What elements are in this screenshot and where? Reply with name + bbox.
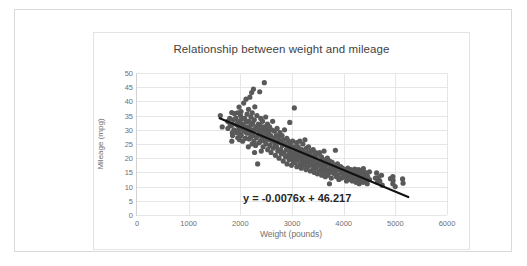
x-axis-title: Weight (pounds) <box>136 229 446 239</box>
y-tick-label: 20 <box>125 154 133 163</box>
gridline-horizontal <box>137 215 447 216</box>
y-tick-label: 40 <box>125 97 133 106</box>
x-tick-label: 3000 <box>284 219 301 228</box>
x-tick-label: 1000 <box>180 219 197 228</box>
x-tick-label: 6000 <box>439 219 456 228</box>
y-tick-label: 15 <box>125 168 133 177</box>
trendline-equation-annotation: y = -0.0076x + 46.217 <box>243 192 351 204</box>
chart-container: Relationship between weight and mileage … <box>93 32 470 250</box>
y-tick-label: 45 <box>125 83 133 92</box>
y-tick-label: 25 <box>125 140 133 149</box>
x-tick-label: 0 <box>135 219 139 228</box>
y-tick-label: 50 <box>125 69 133 78</box>
y-tick-label: 10 <box>125 182 133 191</box>
y-tick-label: 35 <box>125 111 133 120</box>
y-tick-label: 30 <box>125 125 133 134</box>
gridline-vertical <box>447 73 448 215</box>
trendline <box>220 118 409 197</box>
y-tick-label: 5 <box>129 196 133 205</box>
chart-title: Relationship between weight and mileage <box>94 43 469 55</box>
x-tick-label: 2000 <box>232 219 249 228</box>
plot-area: 05101520253035404550 0100020003000400050… <box>136 73 447 216</box>
x-tick-label: 4000 <box>335 219 352 228</box>
y-tick-label: 0 <box>129 211 133 220</box>
x-tick-label: 5000 <box>387 219 404 228</box>
image-outer-border: Relationship between weight and mileage … <box>14 9 512 252</box>
y-axis-title: Mileage (mpg) <box>96 118 105 169</box>
